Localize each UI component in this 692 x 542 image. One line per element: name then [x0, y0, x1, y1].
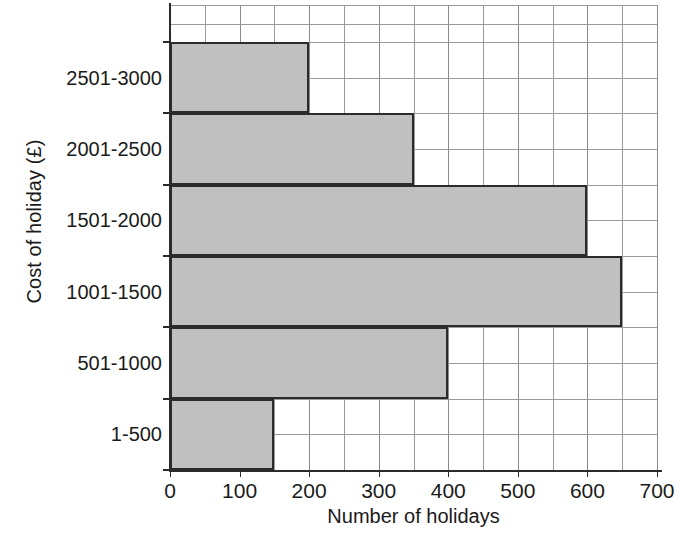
gridline-horizontal: [170, 5, 657, 6]
bar-chart: Cost of holiday (£) 01002003004005006007…: [0, 0, 692, 542]
x-axis-tick: [518, 470, 519, 477]
x-axis-tick: [309, 470, 310, 477]
x-axis-tick: [170, 470, 171, 477]
x-axis-tick-label: 300: [344, 479, 414, 503]
y-axis-tick: [163, 255, 171, 257]
x-axis-tick-label: 400: [413, 479, 483, 503]
bar-501-1000: [170, 327, 448, 398]
y-axis-label-2001-2500: 2001-2500: [10, 138, 162, 161]
bar-2001-2500: [170, 113, 414, 184]
x-axis-tick-label: 600: [552, 479, 622, 503]
y-axis-tick: [163, 41, 171, 43]
bar-1-500: [170, 399, 274, 470]
x-axis-tick-label: 500: [483, 479, 553, 503]
bar-1501-2000: [170, 185, 587, 256]
x-axis-tick-label: 200: [274, 479, 344, 503]
x-axis-tick: [240, 470, 241, 477]
gridline-horizontal: [170, 24, 657, 25]
y-axis-tick: [163, 398, 171, 400]
x-axis-tick: [448, 470, 449, 477]
gridline-vertical: [587, 5, 588, 470]
x-axis-tick-label: 700: [622, 479, 692, 503]
y-axis-tick: [163, 469, 171, 471]
x-axis-tick: [657, 470, 658, 477]
bar-1001-1500: [170, 256, 622, 327]
x-axis-title: Number of holidays: [170, 505, 657, 528]
x-axis-tick: [379, 470, 380, 477]
y-axis-label-1501-2000: 1501-2000: [10, 209, 162, 232]
plot-area: [170, 5, 657, 470]
gridline-vertical: [657, 5, 658, 470]
y-axis-label-1001-1500: 1001-1500: [10, 280, 162, 303]
y-axis-tick: [163, 184, 171, 186]
x-axis-tick-label: 0: [135, 479, 205, 503]
y-axis-tick: [163, 112, 171, 114]
y-axis-label-2501-3000: 2501-3000: [10, 66, 162, 89]
x-axis-tick-label: 100: [205, 479, 275, 503]
y-axis-line: [169, 3, 171, 472]
y-axis-tick: [163, 326, 171, 328]
y-axis-label-1-500: 1-500: [10, 423, 162, 446]
gridline-vertical: [622, 5, 623, 470]
bar-2501-3000: [170, 42, 309, 113]
x-axis-tick: [587, 470, 588, 477]
y-axis-label-501-1000: 501-1000: [10, 352, 162, 375]
